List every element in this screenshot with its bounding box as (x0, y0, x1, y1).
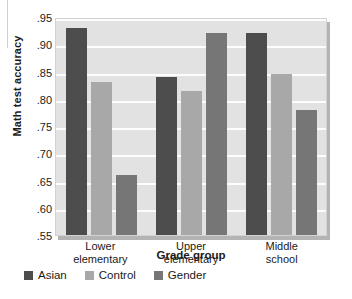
bar-asian[interactable] (156, 77, 177, 235)
x-axis-title: Grade group (55, 249, 327, 261)
bar-asian[interactable] (246, 33, 267, 235)
legend-swatch-icon (24, 271, 33, 280)
legend-label: Control (99, 269, 136, 281)
bar-chart-figure: Math test accuracy .95.90.85.80.75.70.65… (0, 0, 352, 299)
bar-control[interactable] (91, 82, 112, 235)
bar-group (56, 19, 146, 235)
y-axis-tick-label: .75 (26, 121, 52, 133)
legend-item-asian[interactable]: Asian (24, 269, 67, 281)
legend-swatch-icon (154, 271, 163, 280)
y-axis-tick-label: .55 (26, 230, 52, 242)
page-edge-decoration (0, 0, 8, 48)
legend-swatch-icon (85, 271, 94, 280)
y-axis-tick-label: .60 (26, 203, 52, 215)
bar-control[interactable] (181, 91, 202, 235)
legend: AsianControlGender (24, 269, 206, 281)
y-axis-tick-label: .70 (26, 148, 52, 160)
bar-groups (56, 19, 326, 235)
bar-group (236, 19, 326, 235)
legend-label: Asian (38, 269, 67, 281)
y-axis-tick-label: .90 (26, 39, 52, 51)
bar-gender[interactable] (116, 175, 137, 235)
legend-item-control[interactable]: Control (85, 269, 136, 281)
y-axis-tick-label: .95 (26, 12, 52, 24)
y-axis-title: Math test accuracy (11, 6, 23, 166)
bar-asian[interactable] (66, 28, 87, 235)
legend-item-gender[interactable]: Gender (154, 269, 206, 281)
bar-control[interactable] (271, 74, 292, 235)
bar-group (146, 19, 236, 235)
bar-gender[interactable] (206, 33, 227, 235)
y-axis-tick-label: .80 (26, 94, 52, 106)
plot-area (55, 18, 327, 236)
y-axis-tick-label: .85 (26, 67, 52, 79)
y-axis-tick-labels: .95.90.85.80.75.70.65.60.55 (26, 18, 52, 236)
bar-gender[interactable] (296, 110, 317, 235)
legend-label: Gender (168, 269, 206, 281)
y-axis-tick-label: .65 (26, 176, 52, 188)
